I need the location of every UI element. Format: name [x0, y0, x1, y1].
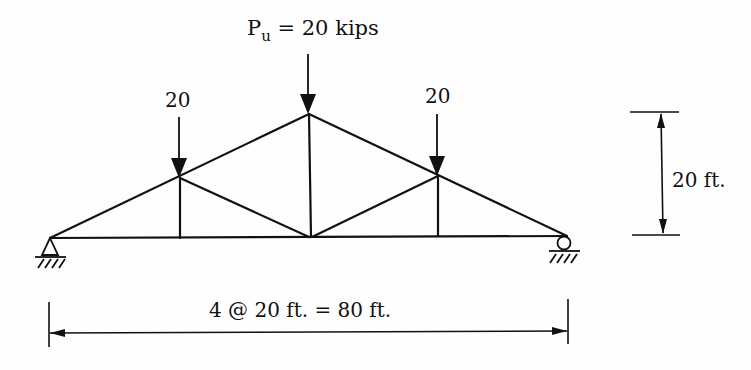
- diagonal-right: [312, 176, 438, 237]
- truss-members: [50, 114, 567, 238]
- right-load-label: 20: [425, 86, 450, 106]
- dimension-arrow-up-icon: [657, 113, 665, 128]
- load-subscript: u: [261, 27, 271, 45]
- height-label: 20 ft.: [672, 170, 726, 190]
- vertical-center: [309, 114, 311, 237]
- load-symbol: P: [247, 16, 261, 40]
- truss-diagram: Pu = 20 kips 20 20 20 ft. 4 @ 20 ft. = 8…: [0, 0, 751, 370]
- load-value: = 20 kips: [271, 16, 379, 40]
- dimension-arrow-down-icon: [659, 219, 667, 234]
- center-load-label: Pu = 20 kips: [247, 18, 379, 39]
- diagonal-left: [180, 178, 309, 237]
- dimension-arrow-right-icon: [552, 327, 567, 335]
- left-load-label: 20: [165, 90, 190, 110]
- pin-support-icon: [35, 238, 66, 268]
- dimension-arrow-left-icon: [50, 329, 65, 337]
- roller-support-icon: [549, 237, 580, 264]
- span-label: 4 @ 20 ft. = 80 ft.: [209, 300, 391, 320]
